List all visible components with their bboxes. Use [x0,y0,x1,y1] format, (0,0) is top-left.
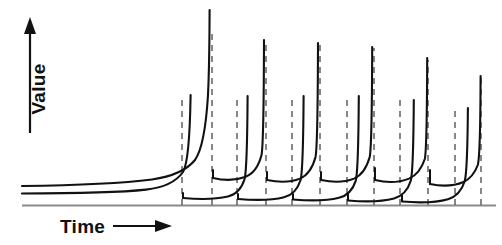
series-lower-curve [22,95,468,202]
x-axis-label: Time [60,216,105,238]
x-axis-arrow [113,220,172,232]
curve-segment [375,58,427,182]
plot-area [0,0,502,245]
curve-segment [183,96,248,199]
curve-segment [213,40,264,180]
chart-figure: Value Time [0,0,502,245]
y-axis-label: Value [28,44,50,134]
